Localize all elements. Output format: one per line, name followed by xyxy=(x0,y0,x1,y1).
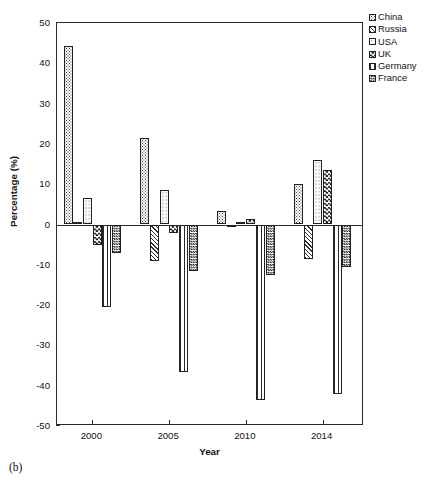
bar-germany-2000 xyxy=(102,225,111,308)
legend-swatch-france-icon xyxy=(369,75,376,82)
legend-swatch-uk-icon xyxy=(369,51,376,58)
y-tick-label: 20 xyxy=(39,137,50,148)
bar-france-2000 xyxy=(112,225,121,253)
plot-inner xyxy=(57,23,362,424)
y-tick-mark xyxy=(56,425,60,426)
legend-label: Germany xyxy=(378,60,417,72)
x-tick-label: 2014 xyxy=(311,430,332,441)
x-tick-mark xyxy=(323,420,324,424)
y-axis-tick-labels: 50403020100-10-20-30-40-50 xyxy=(14,22,50,425)
plot-area xyxy=(56,22,363,425)
x-tick-label: 2000 xyxy=(81,430,102,441)
legend-item-uk[interactable]: UK xyxy=(369,48,443,60)
y-tick-label: -30 xyxy=(36,339,50,350)
y-tick-label: -20 xyxy=(36,299,50,310)
figure-caption: (b) xyxy=(9,461,22,473)
x-tick-mark xyxy=(169,420,170,424)
x-tick-label: 2005 xyxy=(157,430,178,441)
legend-swatch-usa-icon xyxy=(369,38,376,45)
y-tick-label: 10 xyxy=(39,178,50,189)
legend-swatch-china-icon xyxy=(369,14,376,21)
figure-panel-b: ChinaRussiaUSAUKGermanyFrance 5040302010… xyxy=(0,0,443,490)
y-tick-label: 40 xyxy=(39,57,50,68)
x-tick-label: 2010 xyxy=(234,430,255,441)
x-axis-title: Year xyxy=(56,446,363,457)
legend-swatch-germany-icon xyxy=(369,63,376,70)
bar-uk-2005 xyxy=(169,225,178,234)
legend-label: Russia xyxy=(378,23,407,35)
bar-uk-2014 xyxy=(323,170,332,224)
legend-label: UK xyxy=(378,48,391,60)
bar-usa-2005 xyxy=(160,190,169,224)
bar-usa-2000 xyxy=(83,198,92,224)
y-tick-label: -50 xyxy=(36,420,50,431)
bar-usa-2014 xyxy=(313,160,322,224)
bar-uk-2010 xyxy=(246,219,255,225)
bar-china-2010 xyxy=(217,211,226,225)
x-tick-mark xyxy=(92,420,93,424)
y-tick-label: -10 xyxy=(36,258,50,269)
y-tick-label: 0 xyxy=(45,218,50,229)
bar-france-2014 xyxy=(342,225,351,267)
bar-uk-2000 xyxy=(93,225,102,245)
bar-russia-2014 xyxy=(304,225,313,260)
legend-label: China xyxy=(378,11,403,23)
bar-germany-2014 xyxy=(333,225,342,394)
legend-item-china[interactable]: China xyxy=(369,11,443,23)
bar-germany-2005 xyxy=(179,225,188,372)
bar-russia-2010 xyxy=(227,225,236,227)
chart-legend: ChinaRussiaUSAUKGermanyFrance xyxy=(369,11,443,85)
bar-china-2014 xyxy=(294,184,303,224)
bar-usa-2010 xyxy=(236,222,245,224)
legend-item-france[interactable]: France xyxy=(369,72,443,84)
y-axis-title: Percentage (%) xyxy=(8,132,19,252)
legend-swatch-russia-icon xyxy=(369,26,376,33)
bar-russia-2005 xyxy=(150,225,159,261)
y-tick-label: -40 xyxy=(36,379,50,390)
bar-france-2005 xyxy=(189,225,198,271)
y-tick-label: 50 xyxy=(39,17,50,28)
legend-item-usa[interactable]: USA xyxy=(369,36,443,48)
bar-france-2010 xyxy=(266,225,275,275)
bar-china-2000 xyxy=(64,46,73,224)
legend-label: France xyxy=(378,72,407,84)
legend-item-russia[interactable]: Russia xyxy=(369,23,443,35)
legend-label: USA xyxy=(378,36,397,48)
y-tick-label: 30 xyxy=(39,97,50,108)
x-tick-mark xyxy=(246,420,247,424)
bar-russia-2000 xyxy=(73,222,82,224)
bar-china-2005 xyxy=(140,138,149,224)
bar-germany-2010 xyxy=(256,225,265,400)
legend-item-germany[interactable]: Germany xyxy=(369,60,443,72)
